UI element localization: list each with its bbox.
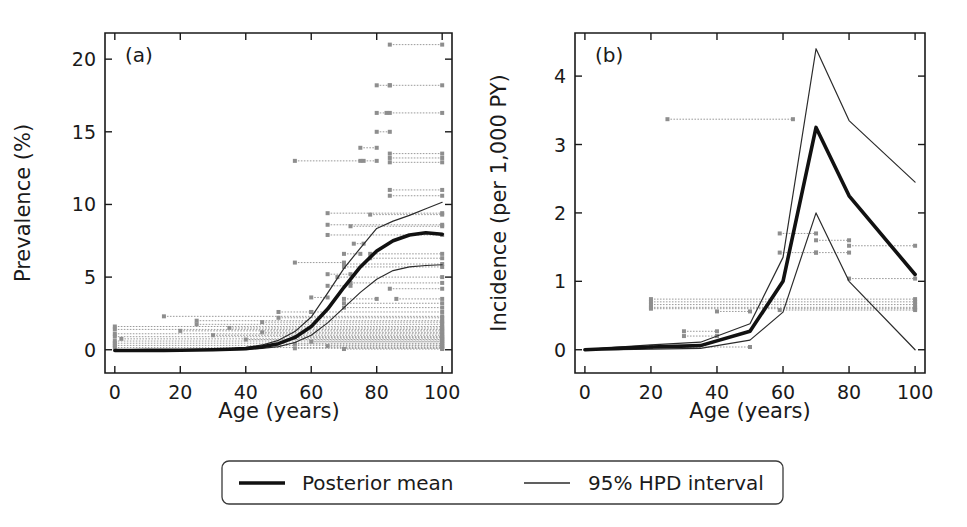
data-interval-endpoint: [326, 233, 330, 237]
data-interval-endpoint: [682, 334, 686, 338]
x-tick-label: 0: [579, 381, 591, 403]
data-interval-endpoint: [388, 152, 392, 156]
data-interval-endpoint: [388, 156, 392, 160]
figure-container: 02040608010005101520 (a) Age (years) Pre…: [0, 0, 967, 527]
data-interval-endpoint: [388, 130, 392, 134]
data-interval-endpoint: [791, 117, 795, 121]
data-interval-endpoint: [715, 309, 719, 313]
data-interval-endpoint: [440, 43, 444, 47]
data-interval-endpoint: [440, 160, 444, 164]
figure-svg: 02040608010005101520 (a) Age (years) Pre…: [0, 0, 967, 527]
data-interval-endpoint: [375, 111, 379, 115]
data-interval-endpoint: [440, 265, 444, 269]
data-interval-endpoint: [368, 213, 372, 217]
data-interval-endpoint: [326, 223, 330, 227]
data-interval-endpoint: [342, 347, 346, 351]
data-interval-endpoint: [394, 297, 398, 301]
data-interval-endpoint: [388, 43, 392, 47]
y-tick-label: 10: [72, 193, 96, 215]
data-interval-endpoint: [326, 272, 330, 276]
y-tick-label: 0: [554, 339, 566, 361]
data-interval-endpoint: [358, 252, 362, 256]
data-interval-endpoint: [814, 238, 818, 242]
y-tick-label: 2: [554, 202, 566, 224]
data-interval-endpoint: [326, 284, 330, 288]
data-interval-endpoint: [913, 277, 917, 281]
data-interval-endpoint: [260, 320, 264, 324]
data-interval-endpoint: [342, 301, 346, 305]
data-interval-endpoint: [309, 295, 313, 299]
y-tick-label: 5: [84, 266, 96, 288]
data-interval-endpoint: [440, 224, 444, 228]
y-tick-label: 4: [554, 65, 566, 87]
data-interval-endpoint: [293, 159, 297, 163]
data-interval-endpoint: [440, 310, 444, 314]
data-interval-endpoint: [440, 301, 444, 305]
data-interval-endpoint: [349, 284, 353, 288]
figure-background: [0, 0, 967, 527]
data-interval-endpoint: [440, 152, 444, 156]
panel-b-x-axis-label: Age (years): [689, 399, 810, 423]
data-interval-endpoint: [119, 337, 123, 341]
data-interval-endpoint: [342, 252, 346, 256]
data-interval-endpoint: [440, 194, 444, 198]
data-interval-endpoint: [913, 244, 917, 248]
panel-a-y-axis-label: Prevalence (%): [11, 124, 35, 282]
data-interval-endpoint: [814, 251, 818, 255]
panel-a-x-axis-label: Age (years): [218, 399, 339, 423]
data-interval-endpoint: [440, 213, 444, 217]
data-interval-endpoint: [715, 329, 719, 333]
y-tick-label: 3: [554, 134, 566, 156]
data-interval-endpoint: [440, 347, 444, 351]
data-interval-endpoint: [682, 329, 686, 333]
x-tick-label: 100: [897, 381, 933, 403]
data-interval-endpoint: [362, 159, 366, 163]
data-interval-endpoint: [277, 310, 281, 314]
data-interval-endpoint: [847, 238, 851, 242]
data-interval-endpoint: [277, 316, 281, 320]
data-interval-endpoint: [440, 275, 444, 279]
x-tick-label: 0: [109, 381, 121, 403]
data-interval-endpoint: [847, 244, 851, 248]
data-interval-endpoint: [440, 83, 444, 87]
y-tick-label: 1: [554, 270, 566, 292]
data-interval-endpoint: [375, 130, 379, 134]
data-interval-endpoint: [113, 327, 117, 331]
data-interval-endpoint: [388, 194, 392, 198]
x-tick-label: 80: [837, 381, 861, 403]
data-interval-endpoint: [440, 188, 444, 192]
data-interval-endpoint: [375, 83, 379, 87]
data-interval-endpoint: [665, 117, 669, 121]
legend-label-posterior-mean: Posterior mean: [302, 471, 453, 495]
data-interval-endpoint: [195, 319, 199, 323]
data-interval-endpoint: [293, 346, 297, 350]
y-tick-label: 20: [72, 48, 96, 70]
data-interval-endpoint: [358, 146, 362, 150]
panel-b-tag: (b): [595, 43, 623, 67]
data-interval-endpoint: [293, 261, 297, 265]
data-interval-endpoint: [388, 188, 392, 192]
panel-a-tag: (a): [125, 43, 153, 67]
data-interval-endpoint: [440, 111, 444, 115]
data-interval-endpoint: [440, 306, 444, 310]
data-interval-endpoint: [162, 314, 166, 318]
legend: Posterior mean 95% HPD interval: [222, 461, 783, 504]
data-interval-endpoint: [778, 308, 782, 312]
data-interval-endpoint: [778, 251, 782, 255]
data-interval-endpoint: [326, 211, 330, 215]
data-interval-endpoint: [440, 256, 444, 260]
data-interval-endpoint: [649, 307, 653, 311]
data-interval-endpoint: [913, 308, 917, 312]
data-interval-endpoint: [440, 297, 444, 301]
data-interval-endpoint: [748, 345, 752, 349]
panel-b-y-axis-label: Incidence (per 1,000 PY): [487, 74, 511, 331]
data-interval-endpoint: [195, 322, 199, 326]
data-interval-endpoint: [748, 309, 752, 313]
data-interval-endpoint: [847, 251, 851, 255]
data-interval-endpoint: [440, 252, 444, 256]
data-interval-endpoint: [440, 156, 444, 160]
x-tick-label: 80: [365, 381, 389, 403]
data-interval-endpoint: [388, 111, 392, 115]
x-tick-label: 20: [168, 381, 192, 403]
data-interval-endpoint: [388, 287, 392, 291]
